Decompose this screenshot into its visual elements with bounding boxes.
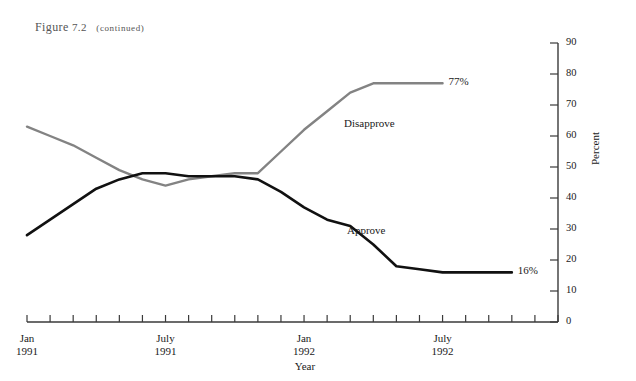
data-series-group xyxy=(27,83,512,272)
x-axis-title: Year xyxy=(270,360,340,372)
end-value-disapprove: 77% xyxy=(449,75,469,87)
y-tick-label: 80 xyxy=(566,67,577,78)
x-tick-label-year: 1992 xyxy=(413,345,473,358)
y-tick-label: 10 xyxy=(566,284,577,295)
x-tick-label-month: Jan xyxy=(0,332,57,345)
x-tick-marks xyxy=(27,315,558,322)
y-tick-label: 70 xyxy=(566,98,577,109)
x-tick-label-year: 1992 xyxy=(274,345,334,358)
x-tick-label: Jan1991 xyxy=(0,332,57,358)
axis-group xyxy=(27,43,558,322)
chart-canvas xyxy=(0,0,636,381)
y-axis-title: Percent xyxy=(589,132,601,165)
x-tick-label: July1991 xyxy=(136,332,196,358)
end-value-approve: 16% xyxy=(518,264,538,276)
x-tick-label-month: July xyxy=(136,332,196,345)
x-tick-label-year: 1991 xyxy=(136,345,196,358)
series-label-disapprove: Disapprove xyxy=(344,117,395,129)
y-tick-label: 60 xyxy=(566,129,577,140)
y-tick-label: 20 xyxy=(566,253,577,264)
series-line-disapprove xyxy=(27,83,443,185)
y-tick-label: 90 xyxy=(566,36,577,47)
x-tick-label: July1992 xyxy=(413,332,473,358)
x-tick-label-month: Jan xyxy=(274,332,334,345)
y-tick-label: 0 xyxy=(566,315,571,326)
x-tick-label-month: July xyxy=(413,332,473,345)
figure-container: Figure 7.2 (continued) Jan1991July1991Ja… xyxy=(0,0,636,381)
y-tick-label: 50 xyxy=(566,160,577,171)
series-label-approve: Approve xyxy=(347,224,386,236)
y-tick-label: 40 xyxy=(566,191,577,202)
x-tick-label: Jan1992 xyxy=(274,332,334,358)
y-tick-label: 30 xyxy=(566,222,577,233)
y-tick-marks xyxy=(550,43,558,322)
series-line-approve xyxy=(27,173,512,272)
x-tick-label-year: 1991 xyxy=(0,345,57,358)
